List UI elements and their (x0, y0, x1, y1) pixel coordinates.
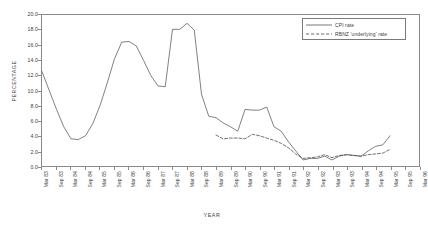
series-line (216, 134, 390, 158)
series-line (42, 23, 390, 160)
x-axis-tick-label: Sep 83 (58, 171, 64, 187)
x-axis-tick (143, 167, 144, 170)
x-axis-tick-label: Sep 89 (233, 171, 239, 187)
legend-label-rbnz-underlying-rate: RBNZ 'underlying' rate (335, 31, 387, 37)
x-axis-tick (420, 167, 421, 170)
x-axis-tick-label: Mar 84 (72, 171, 78, 187)
x-axis-tick-label: Sep 93 (349, 171, 355, 187)
x-axis-title: YEAR (0, 212, 424, 218)
x-axis-tick-label: Mar 95 (393, 171, 399, 187)
x-axis-tick-label: Mar 88 (189, 171, 195, 187)
x-axis-tick (41, 167, 42, 170)
x-axis-tick-label: Mar 96 (422, 171, 428, 187)
x-axis-tick (172, 167, 173, 170)
x-axis-tick (333, 167, 334, 170)
x-axis-tick-labels: Mar 83Sep 83Mar 84Sep 84Mar 85Sep 85Mar … (41, 171, 420, 203)
legend-swatch-solid-line (306, 22, 332, 28)
x-axis-tick (99, 167, 100, 170)
x-axis-tick-label: Mar 93 (335, 171, 341, 187)
x-axis-tick (216, 167, 217, 170)
x-axis-tick (114, 167, 115, 170)
x-axis-tick-label: Mar 83 (43, 171, 49, 187)
x-axis-tick-label: Sep 87 (174, 171, 180, 187)
x-axis-tick-label: Sep 85 (116, 171, 122, 187)
x-axis-tick-label: Mar 91 (276, 171, 282, 187)
legend-item-rbnz-underlying-rate: RBNZ 'underlying' rate (306, 30, 402, 37)
x-axis-tick (303, 167, 304, 170)
x-axis-tick-label: Sep 90 (262, 171, 268, 187)
x-axis-tick (260, 167, 261, 170)
x-axis-tick-label: Sep 92 (320, 171, 326, 187)
x-axis-tick-label: Mar 89 (218, 171, 224, 187)
x-axis-tick-label: Sep 91 (291, 171, 297, 187)
x-axis-tick (376, 167, 377, 170)
x-axis-tick-label: Sep 84 (87, 171, 93, 187)
x-axis-tick-label: Mar 85 (101, 171, 107, 187)
x-axis-tick-label: Sep 88 (203, 171, 209, 187)
legend-label-cpi-rate: CPI rate (335, 22, 354, 28)
x-axis-tick (158, 167, 159, 170)
x-axis-tick (405, 167, 406, 170)
x-axis-tick (70, 167, 71, 170)
legend-item-cpi-rate: CPI rate (306, 21, 402, 28)
x-axis-tick-label: Sep 95 (407, 171, 413, 187)
legend-swatch-dashed-line (306, 31, 332, 37)
x-axis-tick (231, 167, 232, 170)
x-axis-tick (245, 167, 246, 170)
x-axis-tick-label: Sep 94 (378, 171, 384, 187)
x-axis-tick-label: Mar 87 (160, 171, 166, 187)
x-axis-tick-label: Sep 86 (145, 171, 151, 187)
y-axis-title: PERCENTAGE (11, 46, 17, 116)
x-axis-tick (187, 167, 188, 170)
x-axis-tick (318, 167, 319, 170)
x-axis-tick (56, 167, 57, 170)
chart-legend: CPI rate RBNZ 'underlying' rate (302, 18, 406, 40)
x-axis-tick (362, 167, 363, 170)
x-axis-tick-label: Mar 90 (247, 171, 253, 187)
x-axis-tick (347, 167, 348, 170)
x-axis-tick-label: Mar 86 (130, 171, 136, 187)
x-axis-tick (391, 167, 392, 170)
x-axis-tick (289, 167, 290, 170)
y-axis-ticks (0, 14, 41, 167)
x-axis-tick (201, 167, 202, 170)
x-axis-tick (128, 167, 129, 170)
x-axis-tick (274, 167, 275, 170)
x-axis-tick-label: Mar 94 (364, 171, 370, 187)
x-axis-tick (85, 167, 86, 170)
x-axis-tick-label: Mar 92 (305, 171, 311, 187)
